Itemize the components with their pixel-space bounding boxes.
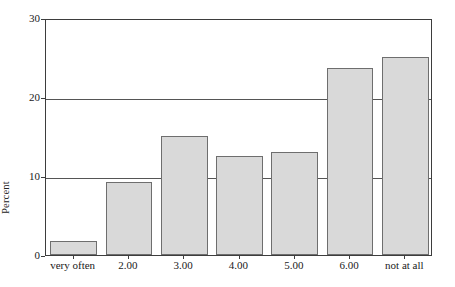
bar — [271, 152, 318, 255]
y-axis-tick-label: 10 — [14, 171, 40, 182]
x-axis-tick-label: not at all — [369, 259, 440, 272]
bar — [216, 156, 263, 255]
bars-layer — [46, 20, 431, 255]
y-axis-tick-label: 20 — [14, 92, 40, 103]
bar — [161, 136, 208, 255]
plot-area — [45, 19, 432, 256]
bar — [50, 241, 97, 255]
bar — [106, 182, 153, 255]
bar — [382, 57, 429, 255]
bar-chart: Percent 0102030 very often2.003.004.005.… — [0, 0, 455, 287]
bar — [327, 68, 374, 255]
y-axis-tick-mark — [41, 256, 45, 257]
y-axis-tick-labels: 0102030 — [14, 0, 40, 287]
y-axis-tick-label: 30 — [14, 13, 40, 24]
x-axis-tick-labels: very often2.003.004.005.006.00not at all — [45, 259, 432, 279]
